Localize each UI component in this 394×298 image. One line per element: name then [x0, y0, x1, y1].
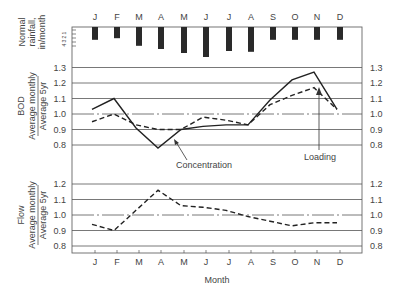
svg-text:2: 2 — [61, 35, 67, 38]
svg-text:1.2: 1.2 — [370, 78, 383, 88]
rainfall-bar — [136, 27, 142, 46]
svg-text:1.0: 1.0 — [370, 210, 383, 220]
rainfall-bar — [248, 27, 254, 52]
chart-frame — [72, 27, 362, 253]
svg-text:Concentration: Concentration — [176, 160, 232, 170]
month-label-bottom: J — [227, 257, 232, 267]
svg-text:Normal: Normal — [17, 17, 27, 46]
svg-text:1.2: 1.2 — [370, 179, 383, 189]
svg-text:4: 4 — [61, 43, 67, 46]
rainfall-bar — [181, 27, 187, 53]
rainfall-ylabel: Normal rainfall, in/month — [17, 15, 47, 50]
month-label-bottom: M — [135, 257, 143, 267]
svg-text:1.0: 1.0 — [370, 109, 383, 119]
svg-text:0.9: 0.9 — [53, 226, 66, 236]
svg-text:1.1: 1.1 — [370, 195, 383, 205]
month-label-bottom: N — [314, 257, 321, 267]
svg-text:1.1: 1.1 — [53, 94, 66, 104]
svg-text:Average 5yr: Average 5yr — [38, 82, 48, 130]
svg-text:3: 3 — [61, 39, 67, 42]
rainfall-bar — [270, 27, 276, 40]
svg-text:0.9: 0.9 — [370, 125, 383, 135]
svg-text:1: 1 — [61, 31, 67, 34]
svg-text:0.8: 0.8 — [53, 241, 66, 251]
svg-text:0.8: 0.8 — [370, 241, 383, 251]
svg-text:0.8: 0.8 — [53, 140, 66, 150]
svg-text:1.1: 1.1 — [370, 94, 383, 104]
svg-text:in/month: in/month — [37, 15, 47, 50]
concentration-annotation: Concentration — [174, 139, 232, 170]
svg-text:Flow: Flow — [16, 205, 26, 225]
series-loading — [92, 88, 337, 130]
month-label-top: O — [291, 12, 298, 22]
rainfall-bar — [337, 27, 343, 40]
month-label-top: S — [270, 12, 276, 22]
svg-text:0.8: 0.8 — [370, 140, 383, 150]
svg-text:1.0: 1.0 — [53, 109, 66, 119]
rainfall-bar — [203, 27, 209, 57]
svg-text:1.1: 1.1 — [53, 195, 66, 205]
series-concentration — [92, 72, 337, 148]
flow-ylabel: Flow Average monthly Average 5yr — [16, 181, 48, 249]
month-label-bottom: J — [204, 257, 209, 267]
svg-text:Average monthly: Average monthly — [27, 72, 37, 140]
bod-ylabel: BOD Average monthly Average 5yr — [16, 72, 48, 140]
month-label-bottom: M — [180, 257, 188, 267]
month-label-top: A — [248, 12, 254, 22]
svg-text:1.3: 1.3 — [370, 63, 383, 73]
flow-panel: 0.80.80.90.91.01.01.11.11.21.2 — [53, 179, 382, 251]
month-label-bottom: A — [248, 257, 254, 267]
month-label-bottom: O — [291, 257, 298, 267]
month-label-bottom: F — [114, 257, 120, 267]
svg-text:1.0: 1.0 — [53, 210, 66, 220]
series-flow — [92, 190, 337, 230]
rainfall-bod-flow-chart: JFMAMJJASOND1234 0.80.80.90.91.01.01.11.… — [0, 0, 394, 298]
rainfall-bar — [292, 27, 298, 40]
rainfall-bar — [114, 27, 120, 38]
svg-text:1.3: 1.3 — [53, 63, 66, 73]
svg-text:Average 5yr: Average 5yr — [38, 191, 48, 239]
rainfall-bar — [158, 27, 164, 49]
svg-text:0.9: 0.9 — [53, 125, 66, 135]
svg-text:1.2: 1.2 — [53, 179, 66, 189]
month-label-top: M — [135, 12, 143, 22]
month-label-top: D — [337, 12, 344, 22]
month-label-top: J — [227, 12, 232, 22]
month-label-bottom: D — [337, 257, 344, 267]
rainfall-bars: JFMAMJJASOND1234 — [61, 12, 344, 57]
rainfall-bar — [92, 27, 98, 40]
bod-panel: 0.80.80.90.91.01.01.11.11.21.21.31.3 — [53, 63, 382, 151]
month-label-top: J — [204, 12, 209, 22]
svg-text:1.2: 1.2 — [53, 78, 66, 88]
x-axis-title: Month — [204, 275, 229, 285]
svg-text:rainfall,: rainfall, — [27, 17, 37, 46]
month-label-top: N — [314, 12, 321, 22]
svg-text:BOD: BOD — [16, 96, 26, 116]
month-label-bottom: A — [158, 257, 164, 267]
month-label-top: A — [158, 12, 164, 22]
rainfall-bar — [314, 27, 320, 40]
svg-text:Average monthly: Average monthly — [27, 181, 37, 249]
svg-text:Loading: Loading — [304, 152, 336, 162]
month-label-bottom: J — [93, 257, 98, 267]
rainfall-bar — [226, 27, 232, 51]
month-label-top: F — [114, 12, 120, 22]
month-label-top: J — [93, 12, 98, 22]
month-label-bottom: S — [270, 257, 276, 267]
month-label-top: M — [180, 12, 188, 22]
svg-text:0.9: 0.9 — [370, 226, 383, 236]
